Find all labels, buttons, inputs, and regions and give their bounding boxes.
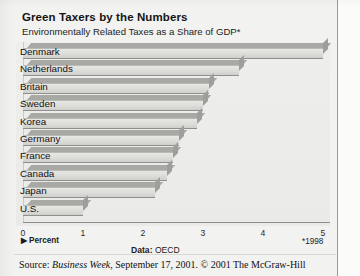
source-suffix: , September 17, 2001. © 2001 The McGraw-…	[110, 259, 305, 270]
page-title: Green Taxers by the Numbers	[22, 11, 187, 23]
bar-front-face	[23, 118, 197, 129]
bar-category-label: Britain	[20, 81, 48, 92]
x-axis-line	[23, 222, 330, 223]
bar-row: Denmark	[16, 44, 330, 61]
source-publication: Business Week	[52, 259, 110, 270]
bar-side-face	[203, 90, 208, 106]
bar-category-label: Germany	[20, 133, 60, 144]
bar-row: Korea	[16, 114, 330, 131]
source-prefix: Source:	[19, 259, 52, 270]
bar-chart-plot: DenmarkNetherlandsBritainSwedenKoreaGerm…	[16, 42, 330, 226]
bar-side-face	[173, 142, 178, 158]
bar-side-face	[155, 177, 160, 193]
bar-category-label: Denmark	[20, 46, 60, 57]
bar-front-face	[23, 83, 209, 94]
page-margin	[338, 0, 360, 276]
bar-category-label: France	[20, 150, 51, 161]
triangle-right-icon: ▶	[21, 236, 27, 245]
bar-category-label: U.S.	[20, 203, 39, 214]
bar-row: France	[16, 148, 330, 165]
figure-right-border	[337, 0, 338, 276]
bar-row: Japan	[16, 183, 330, 200]
bar-side-face	[179, 125, 184, 141]
bar-category-label: Korea	[20, 116, 46, 127]
bar-side-face	[323, 38, 328, 54]
x-tick-label: 4	[261, 228, 266, 238]
bar	[23, 48, 323, 59]
bar-category-label: Japan	[20, 185, 47, 196]
bar-category-label: Sweden	[20, 98, 55, 109]
bar-front-face	[23, 48, 323, 59]
x-tick-label: 2	[141, 228, 146, 238]
bar	[23, 118, 197, 129]
bar-row: Netherlands	[16, 61, 330, 78]
bar-row: Britain	[16, 79, 330, 96]
bar-row: Sweden	[16, 96, 330, 113]
bar-row: Canada	[16, 166, 330, 183]
bar-side-face	[239, 55, 244, 71]
footnote-1998: *1998	[302, 237, 323, 246]
x-axis-label: ▶Percent	[21, 236, 59, 245]
x-tick-label: 3	[201, 228, 206, 238]
bar-row: U.S.	[16, 201, 330, 218]
source-credit: Source: Business Week, September 17, 200…	[19, 259, 305, 270]
page-subtitle: Environmentally Related Taxes as a Share…	[22, 26, 240, 37]
bar-category-label: Netherlands	[20, 63, 73, 74]
chart-figure: Green Taxers by the Numbers Environmenta…	[0, 0, 360, 276]
divider	[14, 254, 336, 255]
percent-text: Percent	[29, 236, 59, 245]
x-tick-label: 1	[81, 228, 86, 238]
bar	[23, 83, 209, 94]
bar-category-label: Canada	[20, 168, 54, 179]
